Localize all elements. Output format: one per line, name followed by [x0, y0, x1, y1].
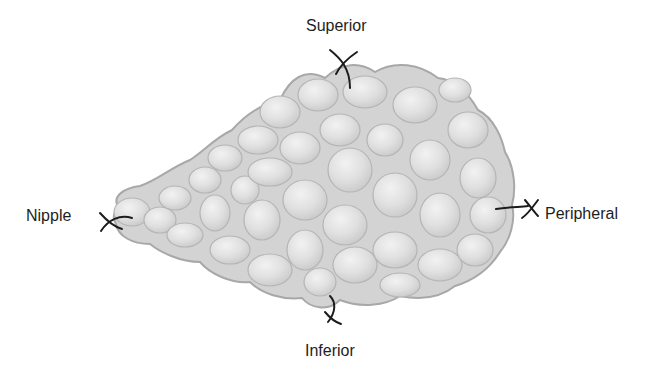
label-inferior: Inferior: [305, 342, 355, 360]
label-peripheral: Peripheral: [545, 205, 618, 223]
label-superior: Superior: [306, 17, 366, 35]
label-nipple: Nipple: [26, 207, 71, 225]
specimen-diagram: [0, 0, 663, 387]
